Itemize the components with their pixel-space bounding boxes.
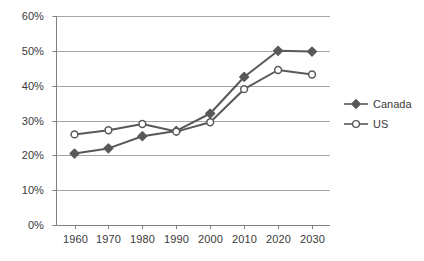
chart-legend: Canada US	[343, 94, 423, 134]
legend-item-us: US	[343, 114, 423, 134]
line-chart: 0%10%20%30%40%50%60% 1960197019801990200…	[0, 0, 424, 261]
legend-label-us: US	[373, 118, 388, 130]
x-axis-tick-label: 2030	[290, 234, 336, 245]
legend-label-canada: Canada	[373, 98, 412, 110]
legend-item-canada: Canada	[343, 94, 423, 114]
legend-marker-us	[343, 117, 369, 131]
legend-marker-canada	[343, 97, 369, 111]
